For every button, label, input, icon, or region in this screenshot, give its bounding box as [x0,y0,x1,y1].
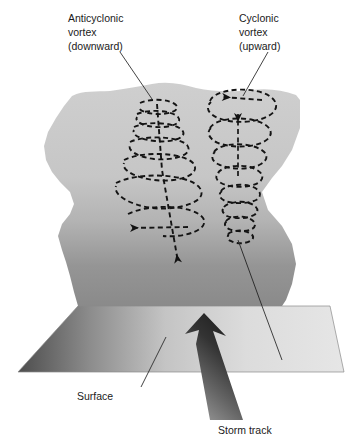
label-cyclonic-line3: (upward) [239,40,280,52]
cloud-slab [44,83,300,306]
surface-plane-body [18,306,344,372]
label-cyclonic-line2: vortex [239,26,268,38]
label-anticyclonic-line1: Anticyclonic [68,12,123,24]
label-cyclonic-line1: Cyclonic [239,12,279,24]
surface-plane [18,306,344,372]
label-surface: Surface [77,390,113,402]
diagram-canvas: Anticyclonic vortex (downward) Cyclonic … [0,0,357,443]
label-anticyclonic-line2: vortex [68,26,97,38]
cloud-slab-body [44,83,300,306]
storm-vortex-diagram: Anticyclonic vortex (downward) Cyclonic … [0,0,357,443]
label-anticyclonic: Anticyclonic vortex (downward) [68,12,123,52]
label-cyclonic: Cyclonic vortex (upward) [239,12,280,52]
label-anticyclonic-line3: (downward) [68,40,123,52]
label-storm-track: Storm track [218,424,272,436]
